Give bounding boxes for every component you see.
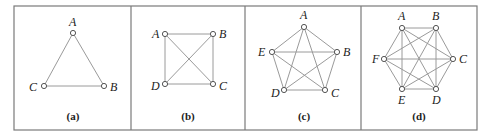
panel-a: ABC(a) [29, 15, 118, 123]
edge-A-B [73, 33, 104, 86]
vertex-C [322, 87, 327, 92]
vertex-label-A: A [151, 27, 160, 41]
vertex-A [162, 31, 167, 36]
panel-b: ABCD(b) [150, 27, 228, 123]
vertex-label-E: E [397, 93, 406, 107]
edge-C-A [44, 33, 73, 86]
vertex-B [433, 25, 438, 30]
panel-c: ABCDE(c) [257, 8, 351, 123]
vertex-label-D: D [150, 79, 160, 93]
vertex-label-A: A [397, 9, 406, 23]
vertex-label-F: F [371, 52, 380, 66]
vertex-label-C: C [459, 52, 468, 66]
edge-A-E [272, 27, 304, 52]
vertex-B [210, 31, 215, 36]
edge-A-F [384, 28, 402, 59]
vertex-B [334, 49, 339, 54]
edge-B-D [284, 52, 337, 90]
panel-caption: (c) [298, 110, 311, 123]
vertex-F [381, 56, 386, 61]
vertex-C [41, 83, 46, 88]
vertex-label-D: D [431, 93, 441, 107]
vertex-label-C: C [331, 86, 340, 100]
vertex-A [301, 24, 306, 29]
vertex-C [210, 81, 215, 86]
panel-caption: (b) [181, 110, 195, 123]
vertex-C [450, 56, 455, 61]
edge-A-C [304, 27, 325, 90]
complete-graphs-figure: ABC(a)ABCD(b)ABCDE(c)ABCDEF(d) [0, 0, 495, 139]
vertex-label-C: C [219, 79, 228, 93]
panel-caption: (a) [67, 110, 80, 123]
vertex-E [269, 49, 274, 54]
vertex-D [162, 81, 167, 86]
vertex-A [399, 25, 404, 30]
vertex-label-B: B [343, 45, 351, 59]
edge-A-D [284, 27, 304, 90]
vertex-label-B: B [219, 27, 227, 41]
panel-caption: (d) [412, 110, 426, 123]
edge-E-F [384, 59, 402, 89]
edge-C-E [272, 52, 325, 90]
vertex-label-B: B [110, 80, 118, 94]
vertex-D [433, 86, 438, 91]
vertex-label-A: A [299, 8, 308, 22]
vertex-label-D: D [270, 86, 280, 100]
vertex-B [101, 83, 106, 88]
vertex-A [70, 30, 75, 35]
figure-svg: ABC(a)ABCD(b)ABCDE(c)ABCDEF(d) [0, 0, 495, 139]
vertex-label-B: B [432, 9, 440, 23]
panel-d: ABCDEF(d) [371, 9, 468, 123]
edge-A-B [304, 27, 337, 52]
vertex-label-E: E [257, 45, 266, 59]
vertex-D [281, 87, 286, 92]
vertex-E [399, 86, 404, 91]
edge-B-C [325, 52, 337, 90]
edge-D-E [272, 52, 284, 90]
vertex-label-A: A [68, 15, 77, 29]
vertex-label-C: C [29, 80, 38, 94]
